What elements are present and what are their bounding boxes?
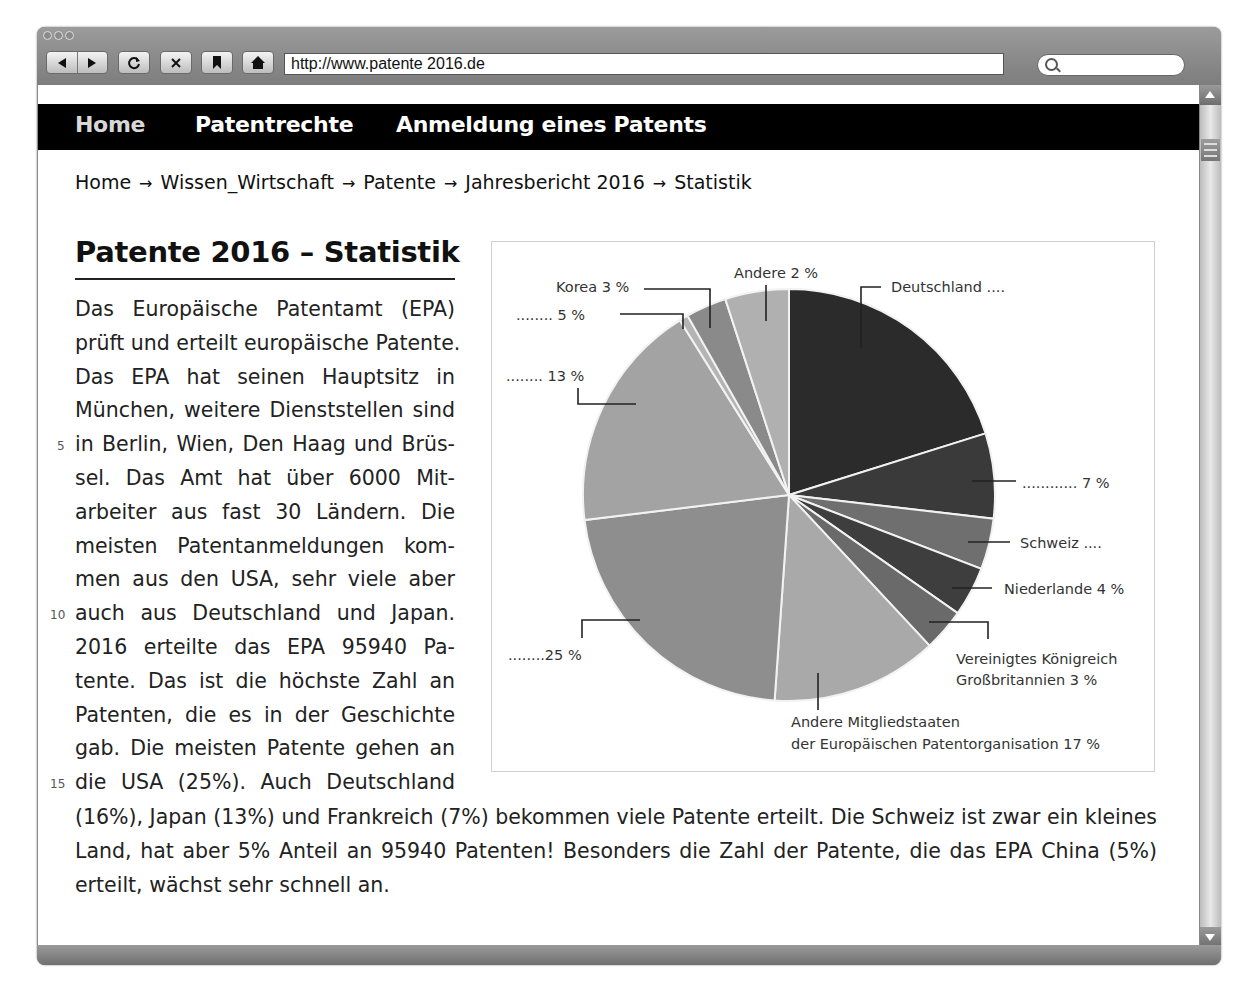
text-line: erteilt, wächst sehr schnell an.: [75, 868, 1157, 902]
text-line: Das EPA hat seinen Hauptsitz in: [75, 361, 455, 395]
label-japan: ........ 13 %: [506, 368, 584, 384]
breadcrumb: Home→Wissen_Wirtschaft→Patente→Jahresber…: [75, 171, 752, 193]
home-icon: [251, 56, 265, 69]
label-andere: Andere 2 %: [734, 265, 818, 281]
window-controls: [43, 31, 74, 40]
forward-arrow-icon: [87, 57, 97, 69]
label-uk: Vereinigtes Königreich: [956, 651, 1117, 667]
text-line: Patenten, die es in der Geschichte: [75, 699, 455, 733]
bookmark-button[interactable]: [201, 51, 233, 74]
browser-toolbar: http://www.patente 2016.de: [37, 27, 1221, 85]
nav-patentrechte[interactable]: Patentrechte: [195, 112, 353, 137]
text-line: arbeiter aus fast 30 Ländern. Die: [75, 496, 455, 530]
breadcrumb-statistik[interactable]: Statistik: [674, 171, 752, 193]
article-full-width-text: (16%), Japan (13%) und Frankreich (7%) b…: [75, 800, 1157, 902]
line-number-15: 15: [50, 777, 65, 791]
nav-home[interactable]: Home: [75, 112, 145, 137]
text-line: (16%), Japan (13%) und Frankreich (7%) b…: [75, 800, 1157, 834]
close-icon: [170, 57, 182, 69]
text-line: Land, hat aber 5% Anteil an 95940 Patent…: [75, 834, 1157, 868]
text-line: gab. Die meisten Patente gehen an: [75, 732, 455, 766]
back-button[interactable]: [47, 52, 77, 73]
breadcrumb-home[interactable]: Home: [75, 171, 131, 193]
vertical-scrollbar[interactable]: [1199, 85, 1221, 947]
label-korea: Korea 3 %: [556, 279, 629, 295]
breadcrumb-separator: →: [444, 174, 457, 193]
text-line: meisten Patentanmeldungen kom-: [75, 530, 455, 564]
nav-anmeldung[interactable]: Anmeldung eines Patents: [396, 112, 707, 137]
close-window-button[interactable]: [43, 31, 52, 40]
search-icon: [1045, 58, 1058, 71]
stop-button[interactable]: [160, 51, 192, 74]
pie-slice-usa: [585, 495, 789, 700]
text-line: auch aus Deutschland und Japan.: [75, 597, 455, 631]
text-line: die USA (25%). Auch Deutschland: [75, 766, 455, 800]
breadcrumb-patente[interactable]: Patente: [363, 171, 436, 193]
page-viewport: Home Patentrechte Anmeldung eines Patent…: [38, 85, 1199, 945]
bookmark-icon: [212, 56, 222, 69]
label-niederlande: Niederlande 4 %: [1004, 581, 1124, 597]
forward-button[interactable]: [77, 52, 108, 73]
text-line: prüft und erteilt europäische Patente.: [75, 327, 455, 361]
text-line: Das Europäische Patentamt (EPA): [75, 293, 455, 327]
pie-chart: Korea 3 % ........ 5 % Andere 2 % ......…: [492, 242, 1156, 773]
back-arrow-icon: [57, 57, 67, 69]
breadcrumb-separator: →: [653, 174, 666, 193]
scroll-thumb[interactable]: [1201, 139, 1220, 161]
text-line: München, weitere Dienststellen sind: [75, 394, 455, 428]
zoom-window-button[interactable]: [65, 31, 74, 40]
text-line: 2016 erteilte das EPA 95940 Pa-: [75, 631, 455, 665]
reload-button[interactable]: [118, 51, 150, 74]
site-nav: Home Patentrechte Anmeldung eines Patent…: [38, 104, 1199, 150]
window-bottom-bar: [37, 945, 1221, 965]
search-input[interactable]: [1037, 54, 1185, 76]
text-line: tente. Das ist die höchste Zahl an: [75, 665, 455, 699]
scroll-up-button[interactable]: [1200, 85, 1221, 105]
breadcrumb-separator: →: [342, 174, 355, 193]
label-frankreich: ............ 7 %: [1022, 475, 1110, 491]
pie-slices: [583, 289, 995, 701]
address-bar[interactable]: http://www.patente 2016.de: [284, 53, 1004, 75]
title-underline: [75, 278, 455, 280]
line-number-10: 10: [50, 608, 65, 622]
reload-icon: [127, 56, 141, 70]
back-forward-group: [46, 51, 108, 74]
breadcrumb-separator: →: [139, 174, 152, 193]
text-line: sel. Das Amt hat über 6000 Mit-: [75, 462, 455, 496]
line-number-5: 5: [57, 439, 65, 453]
article-column-text: Das Europäische Patentamt (EPA) prüft un…: [75, 293, 455, 800]
page-title: Patente 2016 – Statistik: [75, 235, 460, 269]
browser-window: http://www.patente 2016.de Home Patentre…: [37, 27, 1221, 965]
minimize-window-button[interactable]: [54, 31, 63, 40]
label-andere-mitglied: Andere Mitgliedstaaten: [791, 714, 960, 730]
label-usa: ........25 %: [508, 647, 582, 663]
breadcrumb-wissen[interactable]: Wissen_Wirtschaft: [161, 171, 334, 193]
pie-chart-figure: Korea 3 % ........ 5 % Andere 2 % ......…: [491, 241, 1155, 772]
label-schweiz: Schweiz ....: [1020, 535, 1102, 551]
text-line: in Berlin, Wien, Den Haag und Brüs-: [75, 428, 455, 462]
text-line: men aus den USA, sehr viele aber: [75, 563, 455, 597]
scroll-down-button[interactable]: [1200, 927, 1221, 947]
home-button[interactable]: [242, 51, 274, 74]
label-andere-mitglied-line2: der Europäischen Patentorganisation 17 %: [791, 736, 1100, 752]
breadcrumb-jahresbericht[interactable]: Jahresbericht 2016: [465, 171, 644, 193]
label-uk-line2: Großbritannien 3 %: [956, 672, 1097, 688]
label-china: ........ 5 %: [516, 307, 585, 323]
label-deutschland: Deutschland ....: [891, 279, 1005, 295]
